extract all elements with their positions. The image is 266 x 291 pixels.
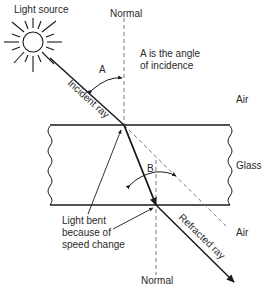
light-bent-label-2: because of xyxy=(62,227,111,238)
angle-a-desc-2: of incidence xyxy=(140,60,194,71)
angle-a-desc-1: A is the angle xyxy=(140,48,200,59)
angle-a-label: A xyxy=(99,64,106,75)
normal-top-label: Normal xyxy=(110,8,142,19)
pointer-line-1 xyxy=(88,130,121,214)
sun-icon xyxy=(4,18,62,72)
angle-b-label: B xyxy=(147,163,154,174)
light-bent-label-1: Light bent xyxy=(62,215,106,226)
angle-a-arc xyxy=(92,78,122,90)
air-top-label: Air xyxy=(236,94,249,105)
pointer-line-2 xyxy=(113,208,153,229)
refraction-diagram: Light source Normal A A is the angle of … xyxy=(0,0,266,291)
refracted-ray-label: Refracted ray xyxy=(177,212,228,262)
incident-ray-label: Incident ray xyxy=(66,77,112,120)
glass-label: Glass xyxy=(236,160,262,171)
normal-bottom-label: Normal xyxy=(141,275,173,286)
refracted-ray xyxy=(156,205,234,282)
light-source-label: Light source xyxy=(14,4,69,15)
light-bent-label-3: speed change xyxy=(62,239,125,250)
air-bottom-label: Air xyxy=(236,227,249,238)
